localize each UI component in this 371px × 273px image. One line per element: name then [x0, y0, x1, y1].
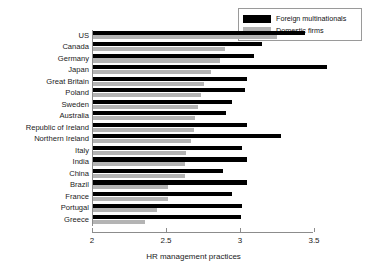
bar-group: France	[93, 191, 314, 203]
bar-group: China	[93, 168, 314, 180]
bar-group: Canada	[93, 42, 314, 54]
bar-domestic-firms	[93, 58, 220, 62]
bar-group: Australia	[93, 111, 314, 123]
bar-domestic-firms	[93, 128, 194, 132]
chart-figure: Foreign multinationals Domestic firms US…	[0, 0, 371, 273]
x-axis-label-text: HR management practices	[130, 252, 241, 261]
category-label: Republic of Ireland	[26, 123, 89, 133]
bar-domestic-firms	[93, 197, 168, 201]
bar-domestic-firms	[93, 47, 225, 51]
bar-foreign-multinationals	[93, 88, 245, 92]
bar-group: Greece	[93, 214, 314, 226]
bar-foreign-multinationals	[93, 146, 242, 150]
category-label: France	[65, 192, 89, 202]
category-label: Brazil	[70, 180, 89, 190]
legend-swatch-foreign-multinationals	[243, 15, 271, 23]
category-label: Greece	[64, 215, 89, 225]
bar-domestic-firms	[93, 185, 168, 189]
x-axis: 22.533.5	[92, 232, 313, 233]
bar-group: Germany	[93, 53, 314, 65]
bar-domestic-firms	[93, 35, 277, 39]
bar-foreign-multinationals	[93, 134, 281, 138]
bar-foreign-multinationals	[93, 169, 223, 173]
x-tick	[166, 228, 167, 232]
category-label: Great Britain	[46, 77, 89, 87]
bar-foreign-multinationals	[93, 111, 226, 115]
x-tick-label: 2	[90, 236, 94, 246]
bar-domestic-firms	[93, 116, 195, 120]
x-tick-label: 2.5	[160, 236, 171, 246]
bar-foreign-multinationals	[93, 157, 247, 161]
bar-foreign-multinationals	[93, 204, 242, 208]
bar-foreign-multinationals	[93, 65, 327, 69]
category-label: Australia	[59, 111, 89, 121]
bar-foreign-multinationals	[93, 77, 247, 81]
bar-foreign-multinationals	[93, 42, 262, 46]
bar-group: Italy	[93, 145, 314, 157]
bar-domestic-firms	[93, 70, 211, 74]
bar-domestic-firms	[93, 82, 204, 86]
bar-group: US	[93, 30, 314, 42]
legend-label-foreign-multinationals: Foreign multinationals	[276, 15, 346, 23]
x-tick	[92, 228, 93, 232]
bar-domestic-firms	[93, 139, 191, 143]
x-axis-label: HR management practices	[0, 252, 371, 261]
category-label: US	[78, 31, 89, 41]
bar-group: Brazil	[93, 180, 314, 192]
x-tick	[240, 228, 241, 232]
bar-foreign-multinationals	[93, 180, 247, 184]
bar-domestic-firms	[93, 208, 157, 212]
bar-domestic-firms	[93, 220, 145, 224]
bar-group: Sweden	[93, 99, 314, 111]
bar-foreign-multinationals	[93, 31, 305, 35]
category-label: Germany	[58, 54, 89, 64]
category-label: India	[73, 157, 89, 167]
category-label: Italy	[75, 146, 89, 156]
bar-group: Northern Ireland	[93, 134, 314, 146]
x-tick-label: 3	[238, 236, 242, 246]
bar-foreign-multinationals	[93, 123, 247, 127]
bar-domestic-firms	[93, 162, 185, 166]
bar-group: Great Britain	[93, 76, 314, 88]
bar-foreign-multinationals	[93, 215, 241, 219]
bar-foreign-multinationals	[93, 54, 254, 58]
category-label: Northern Ireland	[34, 134, 89, 144]
bar-foreign-multinationals	[93, 100, 232, 104]
plot-area: USCanadaGermanyJapanGreat BritainPolandS…	[92, 30, 314, 226]
bar-foreign-multinationals	[93, 192, 232, 196]
bar-group: Republic of Ireland	[93, 122, 314, 134]
category-label: Portugal	[61, 203, 89, 213]
legend-item-foreign-multinationals: Foreign multinationals	[243, 13, 357, 24]
bar-domestic-firms	[93, 93, 201, 97]
bar-domestic-firms	[93, 174, 185, 178]
bar-group: India	[93, 157, 314, 169]
bar-group: Japan	[93, 65, 314, 77]
category-label: Poland	[65, 88, 89, 98]
category-label: China	[69, 169, 89, 179]
bar-group: Poland	[93, 88, 314, 100]
bar-domestic-firms	[93, 105, 198, 109]
x-tick	[314, 228, 315, 232]
category-label: Canada	[62, 42, 89, 52]
bar-group: Portugal	[93, 203, 314, 215]
category-label: Japan	[68, 65, 89, 75]
category-label: Sweden	[62, 100, 89, 110]
x-tick-label: 3.5	[308, 236, 319, 246]
bar-domestic-firms	[93, 151, 186, 155]
